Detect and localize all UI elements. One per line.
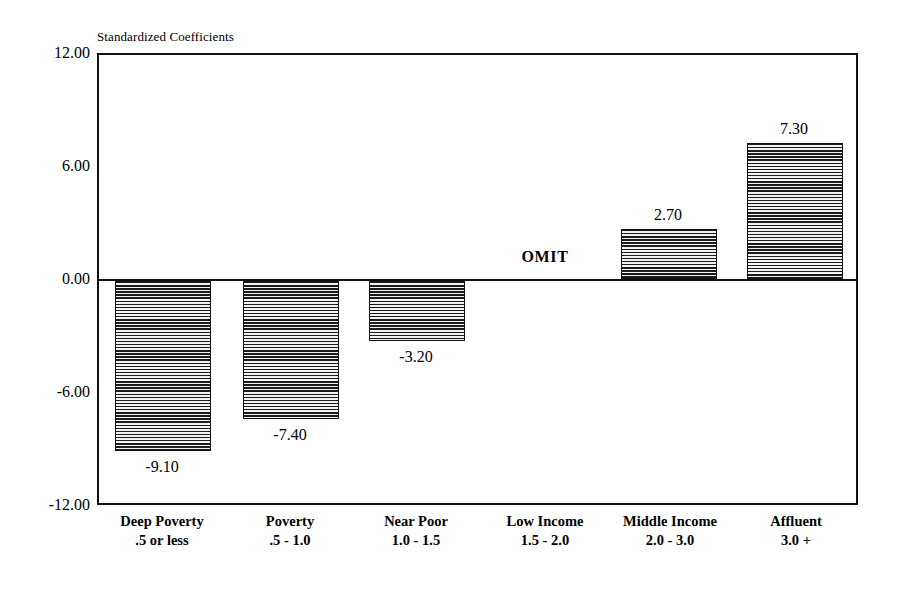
x-category-low-income-line1: Low Income (507, 513, 584, 529)
x-category-poverty-line1: Poverty (266, 513, 314, 529)
y-tick-label-0: 0.00 (4, 270, 90, 288)
y-tick-label-6: 6.00 (4, 157, 90, 175)
zero-baseline (99, 279, 856, 281)
plot-inner (99, 55, 856, 503)
x-category-middle-income-line2: 2.0 - 3.0 (623, 531, 717, 550)
x-category-near-poor: Near Poor 1.0 - 1.5 (384, 512, 448, 550)
x-category-near-poor-line1: Near Poor (384, 513, 448, 529)
x-category-near-poor-line2: 1.0 - 1.5 (384, 531, 448, 550)
chart-axis-title: Standardized Coefficients (97, 29, 234, 45)
x-category-affluent: Affluent 3.0 + (770, 512, 822, 550)
chart-canvas: Standardized Coefficients 12.00 6.00 0.0… (0, 0, 897, 597)
y-tick-label-12: 12.00 (4, 44, 90, 62)
x-category-low-income-line2: 1.5 - 2.0 (507, 531, 584, 550)
bar-affluent[interactable] (747, 143, 843, 279)
x-category-middle-income: Middle Income 2.0 - 3.0 (623, 512, 717, 550)
x-category-low-income: Low Income 1.5 - 2.0 (507, 512, 584, 550)
value-label-middle-income: 2.70 (654, 206, 682, 224)
value-label-near-poor: -3.20 (399, 348, 432, 366)
bar-poverty[interactable] (243, 281, 339, 419)
x-category-deep-poverty-line1: Deep Poverty (120, 513, 203, 529)
value-label-low-income-omit: OMIT (522, 248, 569, 266)
x-category-poverty-line2: .5 - 1.0 (266, 531, 314, 550)
x-category-affluent-line1: Affluent (770, 513, 822, 529)
plot-area (97, 53, 858, 505)
value-label-deep-poverty: -9.10 (145, 458, 178, 476)
x-category-deep-poverty: Deep Poverty .5 or less (120, 512, 203, 550)
bar-deep-poverty[interactable] (115, 281, 211, 451)
y-tick-label-neg12: -12.00 (4, 496, 90, 514)
x-category-deep-poverty-line2: .5 or less (120, 531, 203, 550)
value-label-poverty: -7.40 (273, 426, 306, 444)
x-category-poverty: Poverty .5 - 1.0 (266, 512, 314, 550)
x-category-affluent-line2: 3.0 + (770, 531, 822, 550)
x-category-middle-income-line1: Middle Income (623, 513, 717, 529)
bar-near-poor[interactable] (369, 281, 465, 341)
y-axis: 12.00 6.00 0.00 -6.00 -12.00 (0, 0, 90, 597)
value-label-affluent: 7.30 (780, 120, 808, 138)
bar-middle-income[interactable] (621, 229, 717, 279)
y-tick-label-neg6: -6.00 (4, 383, 90, 401)
